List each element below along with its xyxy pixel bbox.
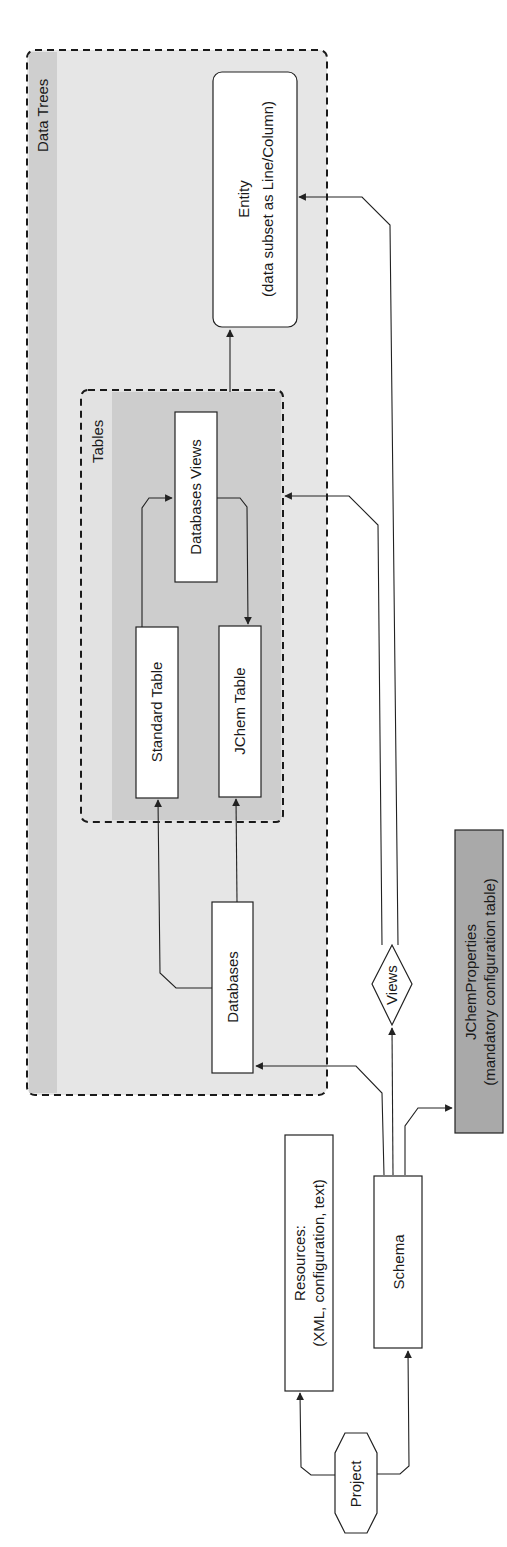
jchem-table-label: JChem Table (231, 667, 248, 754)
edge-schema-jchemproperties (405, 1108, 452, 1175)
standard-table-label: Standard Table (148, 662, 165, 763)
databases-node: Databases (212, 902, 253, 1073)
data-trees-label: Data Trees (34, 79, 51, 152)
resources-title: Resources: (291, 1225, 308, 1301)
databases-label: Databases (224, 951, 241, 1023)
entity-subtitle: (data subset as Line/Column) (259, 101, 276, 297)
architecture-diagram: Data Trees Tables E (0, 0, 507, 1547)
edge-project-schema (376, 1351, 409, 1474)
edge-project-resources (300, 1393, 335, 1475)
jchem-properties-subtitle: (mandatory configuration table) (481, 878, 498, 1086)
jchem-properties-title: JChemProperties (462, 924, 479, 1040)
schema-node: Schema (374, 1176, 422, 1348)
entity-box (213, 72, 297, 327)
resources-subtitle: (XML, configuration, text) (310, 1179, 327, 1347)
standard-table-node: Standard Table (136, 627, 178, 798)
resources-node: Resources: (XML, configuration, text) (285, 1135, 333, 1391)
views-node: Views (372, 945, 412, 1025)
entity-title: Entity (235, 180, 252, 218)
databases-views-node: Databases Views (175, 412, 217, 582)
tables-label: Tables (89, 420, 106, 463)
jchem-properties-node: JChemProperties (mandatory configuration… (455, 830, 503, 1133)
project-node: Project (335, 1433, 377, 1533)
views-label: Views (383, 965, 400, 1005)
databases-views-label: Databases Views (187, 439, 204, 555)
entity-node: Entity (data subset as Line/Column) (213, 72, 297, 327)
project-label: Project (347, 1460, 364, 1508)
edge-schema-views (392, 1028, 393, 1175)
jchem-table-node: JChem Table (219, 626, 261, 797)
schema-label: Schema (390, 1234, 407, 1290)
data-trees-label-strip (29, 52, 57, 1093)
